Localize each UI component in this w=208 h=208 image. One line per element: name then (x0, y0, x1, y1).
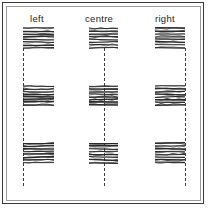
alignment-guide-centre (104, 48, 105, 186)
text-block-centre-1 (89, 27, 118, 49)
text-block-right-2 (155, 85, 185, 106)
alignment-diagram: leftcentreright (0, 0, 208, 208)
alignment-guide-left (23, 48, 24, 186)
text-block-left-3 (23, 142, 54, 164)
text-block-left-2 (23, 85, 54, 106)
text-block-right-3 (155, 142, 185, 164)
text-block-left-1 (23, 27, 54, 49)
text-block-right-1 (155, 27, 185, 49)
column-label-centre: centre (85, 14, 113, 24)
column-label-right: right (155, 14, 175, 24)
alignment-guide-right (185, 48, 186, 186)
diagram-canvas: leftcentreright (0, 0, 208, 208)
text-block-centre-2 (89, 85, 118, 106)
text-block-centre-3 (89, 142, 118, 164)
column-label-left: left (30, 14, 44, 24)
